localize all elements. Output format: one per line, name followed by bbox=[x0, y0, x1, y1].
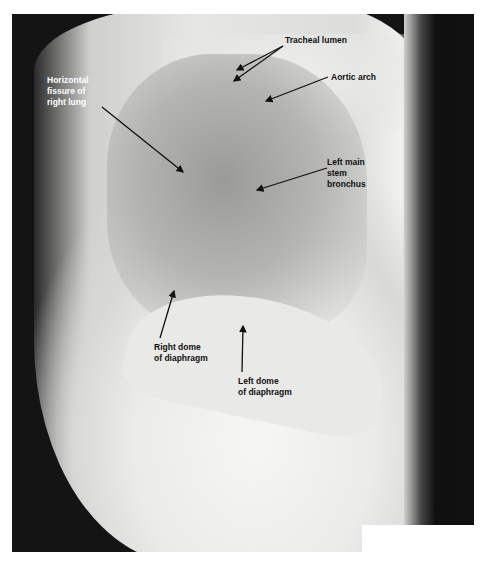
label-aortic-arch: Aortic arch bbox=[331, 72, 376, 83]
posterior-background bbox=[404, 14, 474, 552]
label-right-dome-diaphragm: Right dome of diaphragm bbox=[154, 342, 208, 364]
label-left-main-stem-bronchus: Left main stem bronchus bbox=[327, 157, 366, 190]
image-corner-cutout bbox=[362, 525, 486, 561]
label-left-dome-diaphragm: Left dome of diaphragm bbox=[238, 376, 292, 398]
label-horizontal-fissure: Horizontal fissure of right lung bbox=[47, 75, 89, 108]
lung-field bbox=[107, 54, 367, 334]
label-tracheal-lumen: Tracheal lumen bbox=[285, 35, 347, 46]
